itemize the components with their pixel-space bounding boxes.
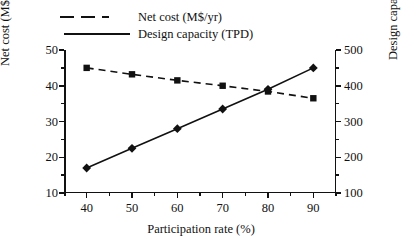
x-tick — [313, 193, 315, 198]
plot-area: 1020304050 100200300400500 405060708090 — [64, 50, 336, 193]
legend-item-design-capacity: Design capacity (TPD) — [60, 25, 320, 42]
x-tick — [131, 193, 133, 198]
y-minor-tick-right — [336, 67, 339, 69]
x-tick — [86, 193, 88, 198]
y-minor-tick-right — [336, 103, 339, 105]
dashed-line-key — [60, 11, 132, 23]
x-tick-label: 50 — [118, 202, 146, 214]
x-minor-tick — [64, 193, 66, 196]
data-point-net-cost — [129, 71, 135, 77]
y-tick-label-right: 200 — [344, 151, 363, 163]
data-point-design-capacity — [173, 124, 182, 133]
data-point-design-capacity — [218, 105, 227, 114]
x-tick-label: 70 — [209, 202, 237, 214]
series-markers-design-capacity — [82, 63, 317, 172]
y-minor-tick-right — [336, 174, 339, 176]
chart-figure: Net cost (M$/yr) Design capacity (TPD) N… — [0, 0, 402, 247]
y-tick-right — [336, 49, 341, 51]
data-point-design-capacity — [82, 164, 91, 173]
legend-item-net-cost: Net cost (M$/yr) — [60, 8, 320, 25]
data-point-net-cost — [174, 77, 180, 83]
x-axis-title: Participation rate (%) — [0, 222, 402, 237]
x-minor-tick — [335, 193, 337, 196]
y-minor-tick-right — [336, 139, 339, 141]
x-minor-tick — [154, 193, 156, 196]
data-point-net-cost — [83, 65, 89, 71]
data-point-net-cost — [310, 95, 316, 101]
data-point-net-cost — [219, 83, 225, 89]
x-tick-label: 90 — [299, 202, 327, 214]
x-minor-tick — [109, 193, 111, 196]
x-tick-label: 80 — [254, 202, 282, 214]
x-minor-tick — [199, 193, 201, 196]
y-tick-label-left: 50 — [30, 44, 58, 56]
x-tick — [267, 193, 269, 198]
y-tick-label-left: 30 — [30, 116, 58, 128]
y-tick-label-right: 400 — [344, 80, 363, 92]
x-minor-tick — [245, 193, 247, 196]
y-tick-label-right: 500 — [344, 44, 363, 56]
y-axis-left-title: Net cost (M$/yr) — [0, 0, 13, 66]
legend-label-net-cost: Net cost (M$/yr) — [132, 11, 222, 23]
x-tick-label: 40 — [73, 202, 101, 214]
data-point-design-capacity — [309, 63, 318, 72]
x-tick — [222, 193, 224, 198]
y-tick-label-left: 20 — [30, 151, 58, 163]
y-tick-label-right: 100 — [344, 187, 363, 199]
y-tick-right — [336, 121, 341, 123]
y-tick-right — [336, 157, 341, 159]
series-lines — [64, 50, 336, 193]
y-tick-right — [336, 85, 341, 87]
x-minor-tick — [290, 193, 292, 196]
y-tick-label-left: 40 — [30, 80, 58, 92]
x-tick — [177, 193, 179, 198]
series-line-net-cost — [87, 68, 314, 98]
solid-line-key — [60, 28, 132, 40]
x-tick-label: 60 — [163, 202, 191, 214]
legend-label-design-capacity: Design capacity (TPD) — [132, 28, 253, 40]
y-tick-label-right: 300 — [344, 116, 363, 128]
y-axis-right-title: Design capacity (TPD) — [386, 0, 401, 60]
y-tick-label-left: 10 — [30, 187, 58, 199]
data-point-design-capacity — [128, 144, 137, 153]
y-tick-right — [336, 192, 341, 194]
chart-legend: Net cost (M$/yr) Design capacity (TPD) — [60, 8, 320, 42]
